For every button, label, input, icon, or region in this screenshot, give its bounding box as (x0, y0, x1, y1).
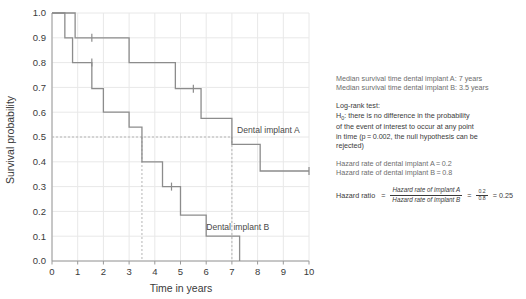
logrank-line-3: in time (p = 0.002, the null hypothesis … (336, 132, 524, 141)
x-tick-label: 7 (229, 266, 234, 277)
y-tick-label: 0.8 (33, 57, 46, 68)
logrank-heading: Log-rank test: (336, 101, 524, 110)
y-tick-label: 0.9 (33, 32, 46, 43)
chart-canvas: 012345678910 0.00.10.20.30.40.50.60.70.8… (0, 0, 330, 299)
x-tick-label: 8 (255, 266, 260, 277)
side-panel: Median survival time dental implant A: 7… (336, 74, 524, 213)
y-tick-label: 0.6 (33, 107, 46, 118)
hazard-ratio-result: 0.25 (499, 191, 513, 200)
series-annotations: Dental implant ADental implant B (206, 125, 300, 232)
hazard-ratio-fraction: Hazard rate of implant A Hazard rate of … (390, 186, 462, 204)
hazard-ratio-block: Hazard ratio = Hazard rate of implant A … (336, 186, 524, 204)
hazard-ratio-numerator: Hazard rate of implant A (390, 186, 462, 194)
hazard-ratio-numeric-fraction: 0.2 0.8 (476, 188, 487, 201)
x-tick-label: 9 (281, 266, 286, 277)
x-tick-label: 6 (204, 266, 209, 277)
y-axis-label: Survival probability (4, 95, 16, 184)
y-tick-label: 0.3 (33, 181, 46, 192)
y-tick-label: 0.5 (33, 131, 46, 142)
y-tick-labels: 0.00.10.20.30.40.50.60.70.80.91.0 (33, 7, 46, 266)
y-tick-label: 0.4 (33, 156, 46, 167)
hazard-ratio-formula: Hazard ratio = Hazard rate of implant A … (336, 186, 524, 204)
logrank-line-2: of the event of interest to occur at any… (336, 122, 524, 131)
survival-chart: 012345678910 0.00.10.20.30.40.50.60.70.8… (0, 0, 330, 299)
x-tick-label: 3 (126, 266, 131, 277)
y-tick-label: 1.0 (33, 7, 46, 18)
logrank-block: Log-rank test: H0: there is no differenc… (336, 101, 524, 150)
median-survival-block: Median survival time dental implant A: 7… (336, 74, 524, 92)
h0-text: : there is no difference in the probabil… (344, 111, 469, 120)
hazard-ratio-equals-2: = (467, 191, 471, 200)
y-tick-label: 0.1 (33, 231, 46, 242)
hazard-ratio-equals-3: = (493, 191, 497, 200)
x-tick-label: 2 (101, 266, 106, 277)
x-tick-label: 0 (49, 266, 54, 277)
x-axis-label: Time in years (150, 282, 213, 294)
hazard-ratio-equals-1: = (381, 191, 385, 200)
y-tick-label: 0.2 (33, 206, 46, 217)
x-tick-labels: 012345678910 (49, 266, 314, 277)
annotation-implant-b: Dental implant B (206, 222, 269, 232)
logrank-h0-line: H0: there is no difference in the probab… (336, 111, 524, 123)
hazard-ratio-label: Hazard ratio (336, 191, 375, 200)
hazard-rate-b: Hazard rate of dental implant B = 0.8 (336, 168, 524, 177)
logrank-line-4: rejected) (336, 141, 524, 150)
hazard-ratio-numeric-denominator: 0.8 (476, 196, 487, 202)
y-tick-label: 0.0 (33, 255, 46, 266)
x-tick-label: 4 (152, 266, 157, 277)
x-tick-label: 10 (304, 266, 315, 277)
hazard-rates-block: Hazard rate of dental implant A = 0.2 Ha… (336, 159, 524, 177)
hazard-rate-a: Hazard rate of dental implant A = 0.2 (336, 159, 524, 168)
x-tick-label: 1 (75, 266, 80, 277)
x-tick-label: 5 (178, 266, 183, 277)
median-survival-b: Median survival time dental implant B: 3… (336, 83, 524, 92)
median-survival-a: Median survival time dental implant A: 7… (336, 74, 524, 83)
figure-root: 012345678910 0.00.10.20.30.40.50.60.70.8… (0, 0, 526, 299)
hazard-ratio-denominator: Hazard rate of implant B (390, 196, 462, 204)
y-tick-label: 0.7 (33, 82, 46, 93)
annotation-implant-a: Dental implant A (237, 125, 300, 135)
